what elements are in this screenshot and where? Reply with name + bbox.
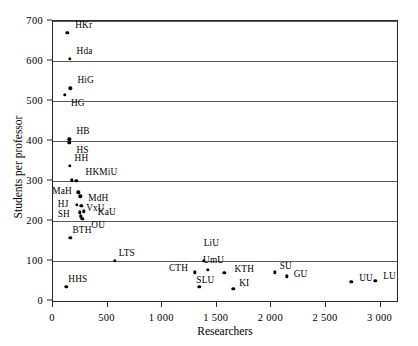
x-tick-mark-1000: [161, 302, 162, 307]
x-tick-label-2500: 2 500: [312, 312, 337, 323]
x-tick-mark-2000: [270, 302, 271, 307]
data-point-HS: [68, 141, 71, 144]
data-point-HG: [63, 93, 66, 96]
data-point-label-HKMiU: HKMiU: [86, 167, 118, 177]
y-tick-label-400: 400: [26, 135, 43, 146]
data-point-label-HJ: HJ: [58, 199, 69, 209]
plot-area: HKrHdaHiGHGHBHSHHHKMiUMaHMdHHJVxUSHKaUOU…: [52, 20, 398, 302]
y-tick-label-600: 600: [26, 55, 43, 66]
data-point-label-MaH: MaH: [52, 186, 72, 196]
x-tick-label-2000: 2 000: [258, 312, 283, 323]
y-tick-label-200: 200: [26, 215, 43, 226]
data-point-SLU: [198, 285, 201, 288]
x-tick-label-1000: 1 000: [149, 312, 174, 323]
data-point-MaH: [77, 190, 80, 193]
gridline-y-100: [53, 261, 397, 262]
data-point-label-HH: HH: [75, 153, 89, 163]
data-point-HKr: [65, 31, 68, 34]
x-tick-mark-1500: [216, 302, 217, 307]
data-point-HHS: [65, 285, 68, 288]
data-point-UmU: [206, 268, 209, 271]
data-point-UU: [349, 280, 352, 283]
x-tick-mark-500: [107, 302, 108, 307]
data-point-label-KaU: KaU: [98, 207, 116, 217]
data-point-label-LiU: LiU: [204, 238, 219, 248]
data-point-HiG: [69, 86, 72, 89]
x-tick-label-0: 0: [49, 312, 55, 323]
data-point-label-Hda: Hda: [77, 46, 93, 56]
data-point-Hda: [68, 57, 71, 60]
data-point-label-MdH: MdH: [88, 193, 108, 203]
data-point-KaU: [82, 210, 85, 213]
gridline-y-400: [53, 141, 397, 142]
data-point-label-GU: GU: [294, 269, 308, 279]
data-point-HJ: [75, 203, 78, 206]
x-axis-title: Researchers: [52, 325, 398, 337]
data-point-LTS: [113, 259, 116, 262]
data-point-label-SLU: SLU: [196, 275, 214, 285]
data-point-label-BTH: BTH: [72, 225, 91, 235]
data-point-label-OU: OU: [91, 220, 105, 230]
data-point-MdH: [79, 194, 82, 197]
data-point-label-UU: UU: [359, 273, 373, 283]
x-tick-mark-2500: [325, 302, 326, 307]
data-point-SH: [78, 210, 81, 213]
data-point-label-HiG: HiG: [77, 75, 93, 85]
x-tick-label-3000: 3 000: [367, 312, 392, 323]
data-point-label-UmU: UmU: [203, 255, 224, 265]
data-point-GU: [285, 274, 288, 277]
data-point-label-LU: LU: [383, 271, 396, 281]
data-point-label-CTH: CTH: [169, 263, 188, 273]
gridline-y-500: [53, 101, 397, 102]
data-point-LU: [373, 279, 376, 282]
y-axis: 0100200300400500600700: [0, 20, 52, 302]
data-point-label-SU: SU: [280, 261, 292, 271]
x-tick-label-1500: 1 500: [203, 312, 228, 323]
gridline-y-300: [53, 181, 397, 182]
y-tick-label-100: 100: [26, 255, 43, 266]
y-tick-label-700: 700: [26, 15, 43, 26]
x-axis: 05001 0001 5002 0002 5003 000: [52, 302, 398, 326]
data-point-BTH: [69, 236, 72, 239]
data-point-label-KI: KI: [239, 278, 249, 288]
x-tick-mark-0: [52, 302, 53, 307]
data-point-VxU: [79, 204, 82, 207]
gridline-y-600: [53, 61, 397, 62]
data-point-SU: [273, 270, 276, 273]
scatter-chart: Students per professor 01002003004005006…: [0, 0, 418, 346]
data-point-label-KTH: KTH: [234, 264, 254, 274]
data-point-label-HG: HG: [71, 98, 85, 108]
y-tick-label-0: 0: [37, 295, 43, 306]
gridline-y-700: [53, 21, 397, 22]
data-point-HH: [68, 164, 71, 167]
data-point-label-HKr: HKr: [75, 20, 92, 30]
data-point-KTH: [223, 271, 226, 274]
data-point-label-HB: HB: [76, 126, 89, 136]
y-tick-label-500: 500: [26, 95, 43, 106]
x-tick-mark-3000: [380, 302, 381, 307]
data-point-KI: [231, 287, 234, 290]
y-tick-label-300: 300: [26, 175, 43, 186]
data-point-label-HHS: HHS: [68, 274, 87, 284]
x-tick-label-500: 500: [98, 312, 115, 323]
data-point-label-LTS: LTS: [119, 248, 135, 258]
data-point-CTH: [193, 270, 196, 273]
data-point-label-SH: SH: [58, 209, 70, 219]
